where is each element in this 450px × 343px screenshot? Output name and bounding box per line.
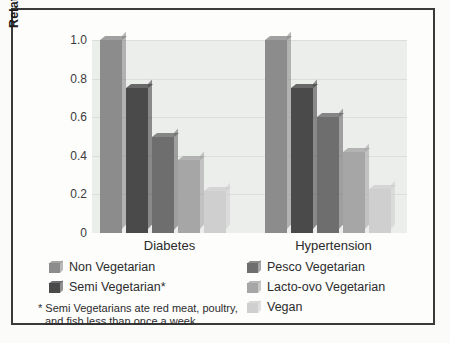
bar-face — [343, 152, 365, 233]
bar-hypertension-lacto-ovo-vegetarian[interactable] — [343, 40, 365, 233]
y-tick-1_0: 1.0 — [47, 33, 87, 47]
bar-hypertension-vegan[interactable] — [369, 40, 391, 233]
legend-item-non-vegetarian[interactable]: Non Vegetarian — [49, 258, 166, 275]
bar-side-face — [226, 182, 230, 229]
y-axis-ticks: 1.0 0.8 0.6 0.4 0.2 0 — [47, 40, 87, 233]
legend-item-pesco-vegetarian[interactable]: Pesco Vegetarian — [247, 258, 385, 275]
legend-item-semi-vegetarian[interactable]: Semi Vegetarian* — [49, 278, 166, 295]
y-tick-0_4: 0.4 — [47, 149, 87, 163]
legend-swatch-semi-vegetarian — [49, 281, 62, 293]
bar-hypertension-semi-vegetarian[interactable] — [291, 40, 313, 233]
bar-group-hypertension — [265, 40, 395, 233]
footnote-line-1: * Semi Vegetarians ate red meat, poultry… — [38, 302, 238, 314]
plot-area — [92, 40, 407, 233]
bar-face — [100, 40, 122, 233]
bar-diabetes-non-vegetarian[interactable] — [100, 40, 122, 233]
bar-hypertension-non-vegetarian[interactable] — [265, 40, 287, 233]
legend-swatch-pesco-vegetarian — [247, 261, 260, 273]
legend-label-vegan: Vegan — [267, 300, 302, 314]
bar-face — [317, 117, 339, 233]
bar-group-diabetes — [100, 40, 230, 233]
legend-left: Non Vegetarian Semi Vegetarian* — [49, 258, 166, 298]
legend-item-vegan[interactable]: Vegan — [247, 298, 385, 315]
y-tick-0_6: 0.6 — [47, 110, 87, 124]
legend-label-non-vegetarian: Non Vegetarian — [69, 260, 155, 274]
bar-face — [204, 191, 226, 233]
y-tick-0: 0 — [47, 226, 87, 240]
figure: Relative Risk of Disease 1.0 0.8 0.6 0.4… — [0, 0, 450, 343]
bar-face — [178, 160, 200, 233]
legend-label-lacto-ovo-vegetarian: Lacto-ovo Vegetarian — [267, 280, 385, 294]
bar-hypertension-pesco-vegetarian[interactable] — [317, 40, 339, 233]
legend-label-pesco-vegetarian: Pesco Vegetarian — [267, 260, 365, 274]
group-label-diabetes: Diabetes — [92, 238, 247, 253]
bar-face — [265, 40, 287, 233]
y-tick-0_2: 0.2 — [47, 187, 87, 201]
bar-face — [369, 189, 391, 233]
footnote: * Semi Vegetarians ate red meat, poultry… — [38, 302, 253, 328]
footnote-line-2: and fish less than once a week — [38, 315, 253, 328]
bar-diabetes-vegan[interactable] — [204, 40, 226, 233]
bar-face — [126, 88, 148, 233]
bar-side-face — [391, 180, 395, 229]
bar-face — [152, 137, 174, 234]
legend-right: Pesco Vegetarian Lacto-ovo Vegetarian Ve… — [247, 258, 385, 318]
figure-frame: Relative Risk of Disease 1.0 0.8 0.6 0.4… — [11, 8, 435, 325]
y-axis-title: Relative Risk of Disease — [7, 0, 21, 28]
bar-diabetes-lacto-ovo-vegetarian[interactable] — [178, 40, 200, 233]
y-tick-0_8: 0.8 — [47, 72, 87, 86]
legend-swatch-lacto-ovo-vegetarian — [247, 281, 260, 293]
bar-diabetes-semi-vegetarian[interactable] — [126, 40, 148, 233]
group-label-hypertension: Hypertension — [251, 238, 416, 253]
legend-item-lacto-ovo-vegetarian[interactable]: Lacto-ovo Vegetarian — [247, 278, 385, 295]
legend-label-semi-vegetarian: Semi Vegetarian* — [69, 280, 166, 294]
bar-diabetes-pesco-vegetarian[interactable] — [152, 40, 174, 233]
bar-face — [291, 88, 313, 233]
legend-swatch-non-vegetarian — [49, 261, 62, 273]
